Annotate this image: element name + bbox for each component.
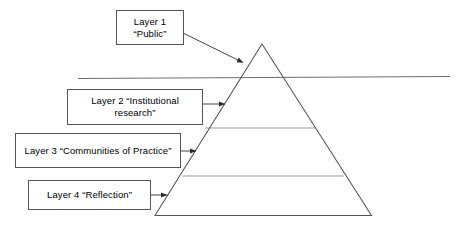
callout-box-layer-2[interactable]: Layer 2 “Institutional research”: [67, 89, 203, 125]
horizon-line: [78, 77, 450, 79]
callout-label-layer-1: Layer 1 “Public”: [130, 16, 169, 40]
callout-label-layer-3: Layer 3 “Communities of Practice”: [22, 145, 175, 157]
pyramid-diagram: Layer 1 “Public” Layer 2 “Institutional …: [0, 0, 461, 231]
callout-box-layer-1[interactable]: Layer 1 “Public”: [116, 10, 184, 45]
callout-box-layer-3[interactable]: Layer 3 “Communities of Practice”: [15, 133, 181, 168]
callout-box-layer-4[interactable]: Layer 4 “Reflection”: [28, 180, 151, 210]
callout-label-layer-4: Layer 4 “Reflection”: [44, 189, 135, 201]
pyramid-outline: [155, 44, 372, 216]
arrow-layer1: [184, 34, 243, 63]
callout-label-layer-2: Layer 2 “Institutional research”: [88, 95, 182, 119]
